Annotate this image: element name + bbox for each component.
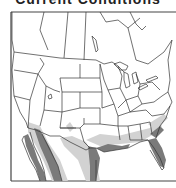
us-map: [0, 0, 176, 188]
